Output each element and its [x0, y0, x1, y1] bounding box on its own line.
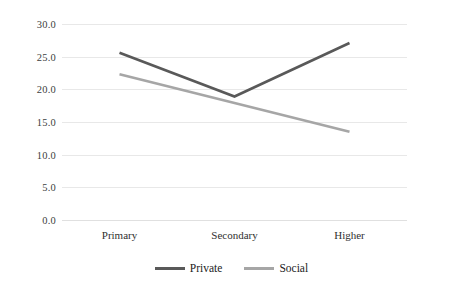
gridline: [62, 220, 407, 221]
y-tick-label: 25.0: [0, 51, 56, 62]
y-tick-label: 20.0: [0, 84, 56, 95]
x-tick-label: Higher: [334, 228, 365, 242]
legend-swatch-private-icon: [155, 267, 185, 270]
y-tick-label: 10.0: [0, 149, 56, 160]
y-tick-label: 15.0: [0, 117, 56, 128]
legend-label: Private: [190, 261, 223, 275]
series-line-private: [120, 43, 350, 97]
legend-item-private[interactable]: Private: [155, 261, 223, 275]
legend-swatch-social-icon: [244, 267, 274, 270]
line-chart: 0.05.010.015.020.025.030.0 PrimarySecond…: [0, 0, 463, 284]
legend-item-social[interactable]: Social: [244, 261, 308, 275]
x-tick-label: Primary: [102, 228, 137, 242]
series-layer: [62, 24, 407, 220]
series-line-social: [120, 74, 350, 131]
legend-label: Social: [279, 261, 308, 275]
y-tick-label: 5.0: [0, 182, 56, 193]
chart-legend: PrivateSocial: [0, 258, 463, 278]
y-axis: 0.05.010.015.020.025.030.0: [0, 24, 56, 220]
y-tick-label: 0.0: [0, 215, 56, 226]
plot-area: [62, 24, 407, 220]
x-axis: PrimarySecondaryHigher: [62, 228, 407, 244]
y-tick-label: 30.0: [0, 19, 56, 30]
x-tick-label: Secondary: [211, 228, 257, 242]
